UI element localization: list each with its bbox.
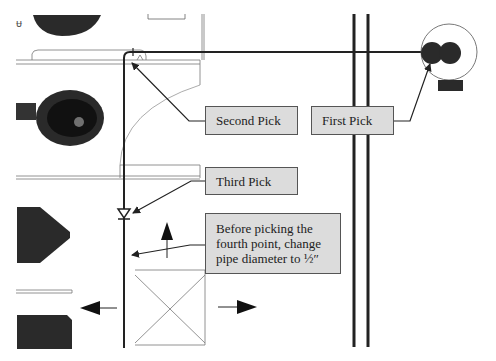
callout-first-pick: First Pick	[311, 106, 394, 135]
water-heater-fixture	[421, 24, 477, 91]
callout-first-pick-label: First Pick	[322, 113, 372, 128]
callout-fourth-point-note-label: Before picking the fourth point, change …	[216, 221, 321, 266]
arrow-right-icon	[218, 300, 257, 314]
arrow-left-icon	[80, 301, 117, 315]
callout-third-pick-label: Third Pick	[216, 174, 271, 189]
arrow-up-icon	[161, 222, 173, 258]
horizontal-pipe	[124, 52, 430, 58]
building-wall-lines	[354, 14, 368, 347]
door-swing-arc	[120, 85, 200, 165]
callout-third-pick: Third Pick	[205, 167, 298, 195]
fixture-pentagon	[17, 207, 70, 263]
corner-mark: ᵾ	[16, 17, 22, 30]
valve-symbol	[118, 209, 130, 219]
callout-second-pick: Second Pick	[205, 106, 298, 135]
fixture-block	[17, 315, 72, 349]
door-bracket	[148, 14, 185, 19]
callout-second-pick-label: Second Pick	[216, 113, 281, 128]
toilet-fixture	[16, 90, 104, 146]
callout-fourth-point-note: Before picking the fourth point, change …	[205, 213, 341, 274]
sink-fixture-top	[33, 15, 101, 36]
crossed-box	[135, 270, 205, 345]
